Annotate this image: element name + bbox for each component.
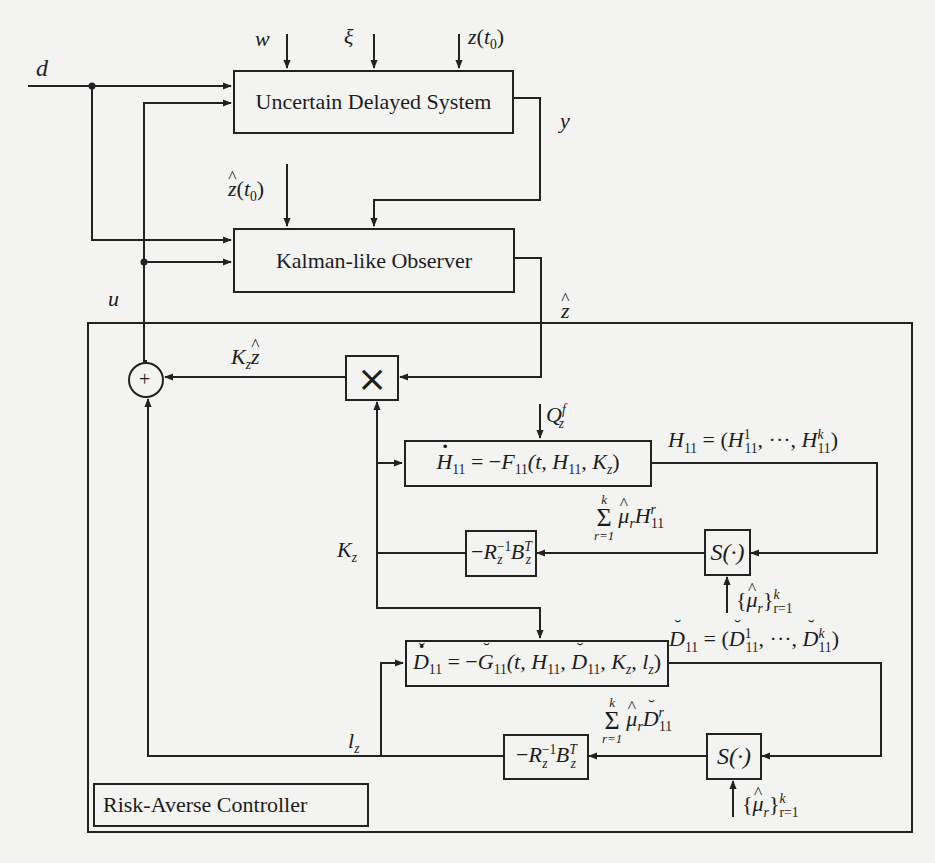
wire-d-to-observer <box>92 86 231 240</box>
selector-lower-block[interactable]: S(·) <box>706 733 762 780</box>
riccati-D-block[interactable]: D11 = −G11(t, H11, D11, Kz, lz) <box>405 640 669 687</box>
label-y: y <box>560 110 570 132</box>
label-lz: lz <box>348 730 359 756</box>
gain-lower-block[interactable]: −R−1zBTz <box>503 734 589 780</box>
observer-block[interactable]: Kalman-like Observer <box>233 228 515 293</box>
label-w: w <box>255 28 270 50</box>
selector-upper-label: S(·) <box>711 539 745 566</box>
label-sum-H: kΣr=1μrHr11 <box>594 493 664 542</box>
selector-lower-label: S(·) <box>717 743 751 770</box>
riccati-H-block[interactable]: H11 = −F11(t, H11, Kz) <box>404 440 652 487</box>
gain-upper-expr: −R−1zBTz <box>471 539 531 569</box>
sum-node-symbol: + <box>139 369 150 389</box>
selector-upper-block[interactable]: S(·) <box>704 529 751 576</box>
plant-label: Uncertain Delayed System <box>256 89 492 115</box>
label-zhat: z <box>561 300 570 322</box>
label-qzf: Qfz <box>546 403 564 430</box>
label-H11-tuple: H11 = (H111, ···, Hk11) <box>668 428 838 455</box>
controller-label: Risk-Averse Controller <box>103 792 307 818</box>
wire-H-to-S <box>651 463 877 553</box>
label-z-t0: z(t0) <box>468 26 504 52</box>
label-zhat-t0: z(t0) <box>228 178 264 204</box>
junction-d <box>89 83 96 90</box>
riccati-D-equation: D11 = −G11(t, H11, D11, Kz, lz) <box>413 649 661 678</box>
junction-u <box>141 259 148 266</box>
label-d: d <box>36 56 48 80</box>
observer-label: Kalman-like Observer <box>276 248 472 274</box>
label-kz-zhat: Kzz <box>231 346 260 372</box>
label-kz: Kz <box>337 539 357 565</box>
label-mu-set-upper: {μr}kr=1 <box>736 588 793 615</box>
label-xi: ξ <box>344 26 353 48</box>
multiplier-block[interactable]: × <box>345 355 399 401</box>
label-mu-set-lower: {μr}kr=1 <box>742 792 799 819</box>
riccati-H-equation: H11 = −F11(t, H11, Kz) <box>436 449 619 478</box>
plant-block[interactable]: Uncertain Delayed System <box>233 70 514 134</box>
label-D11-tuple: D11 = (D111, ···, Dk11) <box>669 627 839 654</box>
multiply-icon: × <box>357 358 387 399</box>
controller-label-box: Risk-Averse Controller <box>93 783 369 827</box>
wire-lz-to-D <box>381 663 403 756</box>
label-sum-D: kΣr=1μrDr11 <box>602 696 672 745</box>
label-u: u <box>108 288 119 310</box>
gain-upper-block[interactable]: −R−1zBTz <box>465 530 537 577</box>
wire-D-to-S <box>668 663 881 756</box>
gain-lower-expr: −R−1zBTz <box>516 742 576 772</box>
